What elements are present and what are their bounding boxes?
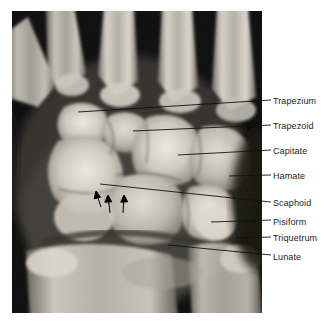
label-lunate: Lunate <box>273 252 301 262</box>
xray-image-panel <box>12 11 262 313</box>
label-hamate: Hamate <box>273 171 305 181</box>
label-trapezium: Trapezium <box>273 96 316 106</box>
label-triquetrum: Triquetrum <box>273 233 317 243</box>
label-scaphoid: Scaphoid <box>273 198 311 208</box>
label-pisiform: Pisiform <box>273 217 306 227</box>
wrist-radiograph-figure: Trapezium Trapezoid Capitate Hamate Scap… <box>0 0 335 327</box>
label-capitate: Capitate <box>273 146 307 156</box>
label-trapezoid: Trapezoid <box>273 121 314 131</box>
